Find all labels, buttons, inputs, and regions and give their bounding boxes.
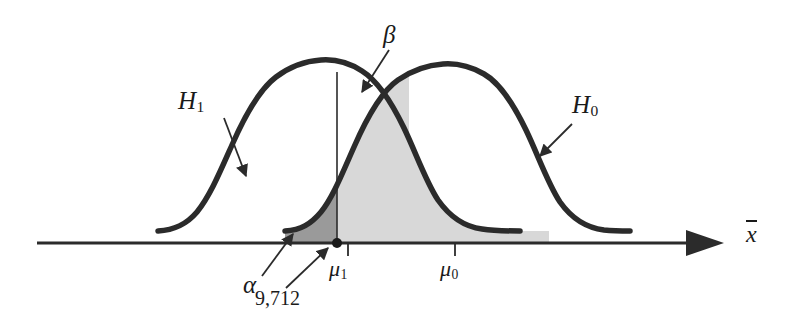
beta-region-fill bbox=[321, 64, 549, 243]
beta-label: β bbox=[383, 22, 395, 47]
h0-label: H0 bbox=[572, 92, 598, 119]
mu1-axis-label: μ1 bbox=[329, 258, 347, 282]
x-axis-label: x bbox=[746, 222, 757, 246]
critical-value-leader-line bbox=[286, 248, 328, 288]
mu0-axis-label: μ0 bbox=[440, 258, 458, 282]
h0-leader-line bbox=[540, 124, 572, 156]
critical-value-label: 9,712 bbox=[255, 288, 300, 308]
alpha-leader-line bbox=[262, 234, 293, 276]
hypothesis-test-diagram bbox=[0, 0, 792, 332]
critical-value-point bbox=[332, 238, 342, 248]
h1-label: H1 bbox=[178, 88, 204, 115]
x-axis-arrowhead bbox=[686, 230, 724, 256]
